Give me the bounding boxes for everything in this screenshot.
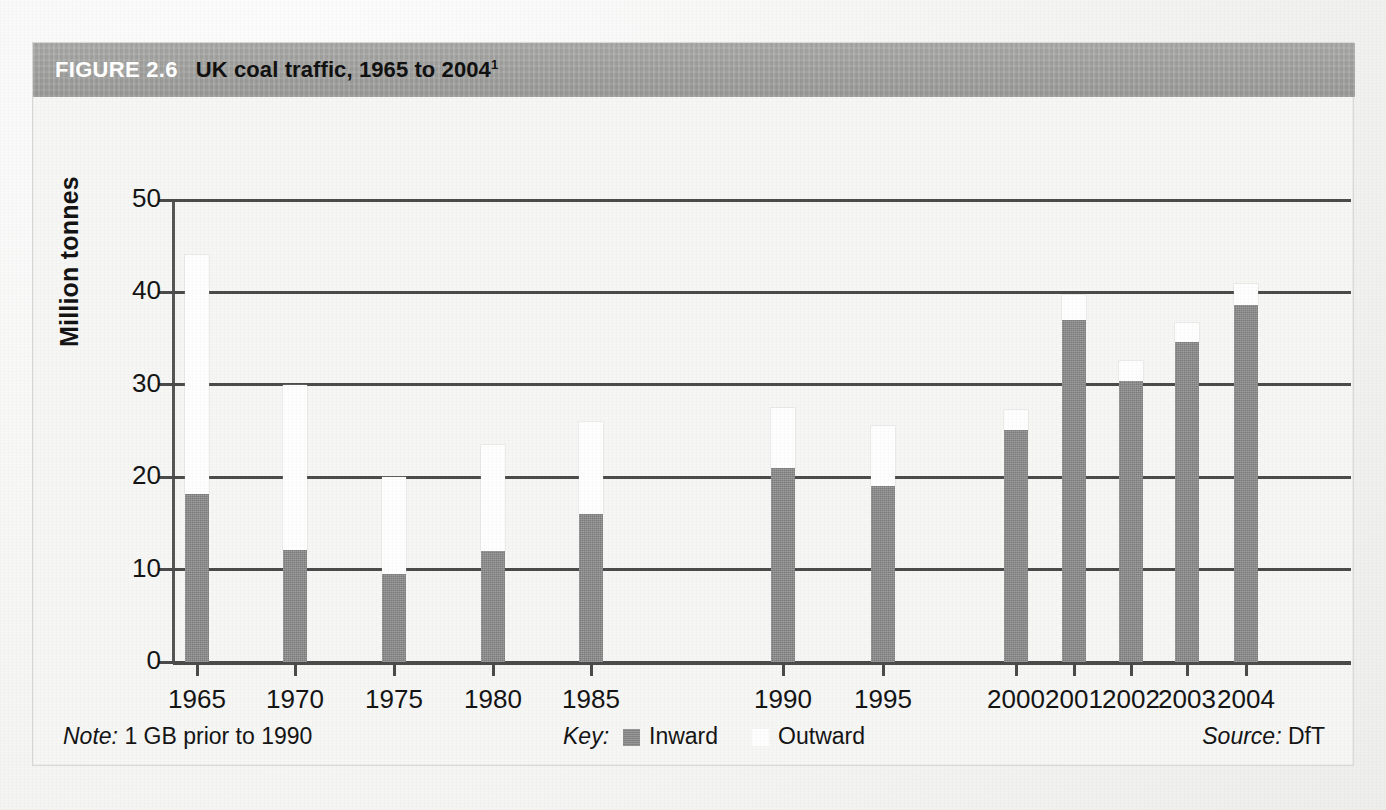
y-axis-tick-40 bbox=[159, 291, 174, 294]
legend-label: Key: bbox=[563, 723, 609, 750]
bar-2004 bbox=[1234, 284, 1258, 662]
bar-2003 bbox=[1175, 323, 1199, 662]
x-axis-tick-1975 bbox=[393, 662, 396, 676]
y-axis-tick-50 bbox=[159, 199, 174, 202]
bar-1985 bbox=[579, 422, 603, 662]
x-axis-tick-1995 bbox=[882, 662, 885, 676]
bar-segment-outward-2001 bbox=[1062, 295, 1086, 320]
x-axis-tick-2000 bbox=[1015, 662, 1018, 676]
x-axis-tick-2003 bbox=[1186, 662, 1189, 676]
gridline-40 bbox=[173, 291, 1351, 294]
bar-segment-inward-1985 bbox=[579, 514, 603, 662]
scanned-page: FIGURE 2.6 UK coal traffic, 1965 to 2004… bbox=[0, 0, 1386, 810]
bar-1995 bbox=[871, 426, 895, 662]
legend-swatch-outward-icon bbox=[752, 729, 769, 746]
y-axis-tick-10 bbox=[159, 568, 174, 571]
x-axis-tick-2004 bbox=[1245, 662, 1248, 676]
x-axis-tick-2002 bbox=[1130, 662, 1133, 676]
bar-1990 bbox=[771, 408, 795, 662]
legend-item-outward: Outward bbox=[778, 723, 865, 750]
y-axis-tick-30 bbox=[159, 383, 174, 386]
bar-2002 bbox=[1119, 361, 1143, 662]
figure-container: FIGURE 2.6 UK coal traffic, 1965 to 2004… bbox=[32, 42, 1354, 766]
bar-segment-inward-1965 bbox=[185, 494, 209, 662]
chart-legend: Key: Inward Outward bbox=[563, 723, 865, 750]
bar-segment-inward-2002 bbox=[1119, 381, 1143, 662]
legend-item-inward: Inward bbox=[649, 723, 718, 750]
bar-segment-outward-2003 bbox=[1175, 323, 1199, 342]
bar-segment-outward-1995 bbox=[871, 426, 895, 486]
bar-segment-outward-2002 bbox=[1119, 361, 1143, 381]
bar-segment-outward-1970 bbox=[283, 385, 307, 550]
figure-title-text: UK coal traffic, 1965 to 2004 bbox=[196, 57, 491, 82]
bar-segment-outward-1990 bbox=[771, 408, 795, 468]
bar-segment-inward-1990 bbox=[771, 468, 795, 662]
x-axis-tick-1970 bbox=[294, 662, 297, 676]
bar-segment-outward-1985 bbox=[579, 422, 603, 514]
figure-number-label: FIGURE 2.6 bbox=[55, 57, 178, 83]
note-label: Note: bbox=[63, 723, 118, 749]
bar-segment-inward-2000 bbox=[1004, 430, 1028, 662]
source-label: Source: bbox=[1202, 723, 1281, 749]
bar-segment-inward-2004 bbox=[1234, 305, 1258, 662]
bar-1965 bbox=[185, 255, 209, 662]
figure-title-bar: FIGURE 2.6 UK coal traffic, 1965 to 2004… bbox=[33, 43, 1355, 97]
bar-2001 bbox=[1062, 295, 1086, 662]
y-axis-line bbox=[172, 200, 175, 662]
bar-segment-inward-2003 bbox=[1175, 342, 1199, 662]
y-axis-tick-label-30: 30 bbox=[91, 368, 161, 399]
y-axis-tick-label-20: 20 bbox=[91, 460, 161, 491]
gridline-50 bbox=[173, 199, 1351, 202]
figure-title: UK coal traffic, 1965 to 20041 bbox=[196, 57, 499, 83]
x-axis-tick-1980 bbox=[492, 662, 495, 676]
bar-segment-outward-1975 bbox=[382, 477, 406, 574]
figure-note: Note: 1 GB prior to 1990 bbox=[63, 723, 312, 750]
y-axis-label: Million tonnes bbox=[55, 176, 84, 347]
figure-footer: Note: 1 GB prior to 1990 Key: Inward Out… bbox=[33, 709, 1355, 767]
y-axis-tick-label-0: 0 bbox=[91, 645, 161, 676]
y-axis-tick-label-10: 10 bbox=[91, 553, 161, 584]
x-axis-tick-2001 bbox=[1073, 662, 1076, 676]
bar-segment-outward-2004 bbox=[1234, 284, 1258, 305]
x-axis-tick-1990 bbox=[782, 662, 785, 676]
x-axis-tick-1965 bbox=[196, 662, 199, 676]
figure-title-footnote-marker: 1 bbox=[491, 57, 498, 72]
y-axis-tick-0 bbox=[159, 661, 174, 664]
bar-segment-outward-1980 bbox=[481, 445, 505, 551]
y-axis-tick-label-50: 50 bbox=[91, 183, 161, 214]
source-text: DfT bbox=[1288, 723, 1325, 749]
bar-2000 bbox=[1004, 410, 1028, 662]
plot-area: Million tonnes 01020304050 1965197019751… bbox=[33, 97, 1355, 709]
bar-1975 bbox=[382, 477, 406, 662]
y-axis-tick-20 bbox=[159, 476, 174, 479]
bar-segment-inward-2001 bbox=[1062, 320, 1086, 662]
chart-canvas: 01020304050 1965197019751980198519901995… bbox=[173, 200, 1351, 662]
figure-source: Source: DfT bbox=[1202, 723, 1325, 750]
bar-1980 bbox=[481, 445, 505, 662]
bar-segment-inward-1995 bbox=[871, 486, 895, 662]
note-text: 1 GB prior to 1990 bbox=[124, 723, 312, 749]
y-axis-tick-label-40: 40 bbox=[91, 275, 161, 306]
bar-segment-outward-2000 bbox=[1004, 410, 1028, 430]
bar-segment-inward-1975 bbox=[382, 574, 406, 662]
bar-segment-outward-1965 bbox=[185, 255, 209, 494]
bar-1970 bbox=[283, 385, 307, 662]
x-axis-tick-1985 bbox=[590, 662, 593, 676]
bar-segment-inward-1970 bbox=[283, 550, 307, 662]
bar-segment-inward-1980 bbox=[481, 551, 505, 662]
legend-swatch-inward-icon bbox=[623, 729, 640, 746]
